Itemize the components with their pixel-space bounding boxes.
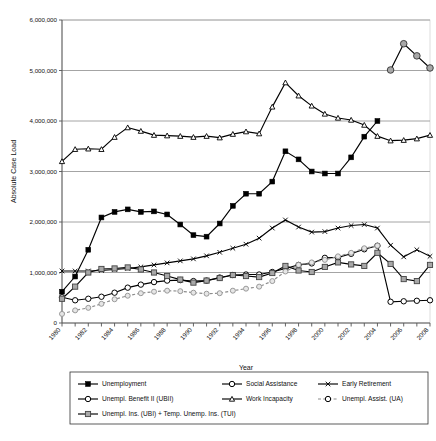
series-6-point-25-marker bbox=[388, 261, 393, 266]
x-axis-tick-label-text: 1994 bbox=[231, 326, 246, 342]
series-0-point-21-marker bbox=[336, 171, 341, 176]
series-6-point-7-marker bbox=[151, 270, 156, 275]
x-axis-tick-label-text: 1980 bbox=[47, 326, 62, 342]
series-3-point-2-marker bbox=[414, 53, 421, 60]
series-5-point-5-marker bbox=[125, 293, 130, 298]
series-6-point-28-marker bbox=[427, 262, 432, 267]
series-6-point-22-marker bbox=[349, 262, 354, 267]
x-axis-tick-label-text: 1996 bbox=[257, 326, 272, 342]
legend-item-label: Early Retirement bbox=[342, 380, 391, 388]
series-6-point-4-marker bbox=[112, 266, 117, 271]
series-6-point-23-marker bbox=[362, 263, 367, 268]
series-1-point-26-marker bbox=[401, 299, 406, 304]
series-0-point-22-marker bbox=[349, 155, 354, 160]
x-axis-tick-label: 1982 bbox=[73, 326, 88, 342]
x-axis-tick-label-text: 1982 bbox=[73, 326, 88, 342]
series-6-point-1-marker bbox=[73, 284, 78, 289]
series-0-point-15-marker bbox=[257, 191, 262, 196]
series-6-point-16-marker bbox=[270, 270, 275, 275]
series-0-point-2-marker bbox=[86, 247, 91, 252]
series-0-point-7-marker bbox=[152, 209, 157, 214]
y-axis-title: Absolute Case Load bbox=[10, 140, 17, 203]
series-6-point-3-marker bbox=[99, 266, 104, 271]
series-0-point-8-marker bbox=[165, 212, 170, 217]
series-1-point-1-marker bbox=[72, 298, 77, 303]
x-axis-tick-label-text: 2000 bbox=[310, 326, 325, 342]
series-0-point-20-marker bbox=[322, 171, 327, 176]
x-axis-tick-label-text: 2006 bbox=[389, 326, 404, 342]
series-0-point-5-marker bbox=[125, 207, 130, 212]
y-axis-tick-label: 2,000,000 bbox=[29, 218, 57, 225]
series-5-point-8-marker bbox=[165, 288, 170, 293]
series-5-point-14-marker bbox=[244, 286, 249, 291]
x-axis-title: Year bbox=[239, 364, 254, 371]
series-5-point-21-marker bbox=[336, 254, 341, 259]
series-5-point-3-marker bbox=[99, 301, 104, 306]
legend-item-label: Unemployment bbox=[102, 380, 147, 388]
series-5-point-20-marker bbox=[322, 257, 327, 262]
y-axis-title-text: Absolute Case Load bbox=[10, 140, 17, 203]
x-axis-tick-label-text: 1988 bbox=[152, 326, 167, 342]
x-axis-tick-label: 1990 bbox=[178, 326, 193, 342]
series-0-point-24-marker bbox=[375, 119, 380, 124]
series-6-point-10-marker bbox=[191, 280, 196, 285]
x-axis-tick-label-text: 1986 bbox=[126, 326, 141, 342]
y-axis-tick-label: 4,000,000 bbox=[29, 117, 57, 124]
legend-item-2-0: Unempl. Ins. (UBI) + Temp. Unemp. Ins. (… bbox=[78, 410, 236, 418]
series-6-point-26-marker bbox=[401, 276, 406, 281]
series-1-point-3-marker bbox=[99, 294, 104, 299]
x-axis-tick-label-text: 1984 bbox=[100, 326, 115, 342]
series-5-point-12-marker bbox=[217, 291, 222, 296]
series-6-point-11-marker bbox=[204, 278, 209, 283]
series-5-point-16-marker bbox=[270, 279, 275, 284]
series-0-point-14-marker bbox=[244, 191, 249, 196]
y-axis-tick-label: 0 bbox=[54, 319, 58, 326]
x-axis-tick-label: 1998 bbox=[284, 326, 299, 342]
series-5-point-18-marker bbox=[296, 262, 301, 267]
series-6-point-6-marker bbox=[138, 267, 143, 272]
series-5-point-0-marker bbox=[60, 311, 65, 316]
series-0-point-4-marker bbox=[112, 210, 117, 215]
series-0-point-13-marker bbox=[230, 203, 235, 208]
legend: UnemploymentSocial AssistanceEarly Retir… bbox=[70, 372, 428, 424]
series-5-point-13-marker bbox=[230, 288, 235, 293]
x-axis-tick-label-text: 2008 bbox=[415, 326, 430, 342]
series-1-point-5-marker bbox=[125, 285, 130, 290]
series-6-point-9-marker bbox=[178, 277, 183, 282]
series-1-point-6-marker bbox=[138, 282, 143, 287]
series-0-point-18-marker bbox=[296, 157, 301, 162]
series-0-point-12-marker bbox=[217, 221, 222, 226]
x-axis-tick-label-text: 2004 bbox=[362, 326, 377, 342]
legend-item-label: Work Incapacity bbox=[246, 395, 293, 403]
legend-item-1-2-marker bbox=[325, 396, 330, 401]
y-axis-tick-label: 6,000,000 bbox=[29, 16, 57, 23]
series-0-point-16-marker bbox=[270, 179, 275, 184]
legend-item-label: Unempl. Benefit II (UBII) bbox=[102, 395, 173, 403]
series-6-point-2-marker bbox=[86, 270, 91, 275]
series-1-point-27-marker bbox=[414, 298, 419, 303]
series-6-point-20-marker bbox=[322, 264, 327, 269]
series-0-point-6-marker bbox=[138, 210, 143, 215]
x-axis-tick-label: 2008 bbox=[415, 326, 430, 342]
x-axis-tick-label: 1984 bbox=[100, 326, 115, 342]
series-5-point-17-marker bbox=[283, 269, 288, 274]
x-axis-tick-label: 2006 bbox=[389, 326, 404, 342]
series-6-point-12-marker bbox=[217, 275, 222, 280]
x-axis-tick-label: 2002 bbox=[336, 326, 351, 342]
series-5-point-6-marker bbox=[138, 291, 143, 296]
y-axis-tick-label: 5,000,000 bbox=[29, 67, 57, 74]
series-5-point-2-marker bbox=[86, 305, 91, 310]
series-6-point-0-marker bbox=[59, 296, 64, 301]
legend-item-1-0-marker bbox=[85, 396, 90, 401]
x-axis-tick-label: 2000 bbox=[310, 326, 325, 342]
series-6-point-18-marker bbox=[296, 268, 301, 273]
series-5-point-4-marker bbox=[112, 297, 117, 302]
series-6-point-24-marker bbox=[375, 250, 380, 255]
series-6-point-8-marker bbox=[165, 273, 170, 278]
series-0-point-23-marker bbox=[362, 134, 367, 139]
x-axis-tick-label: 1994 bbox=[231, 326, 246, 342]
series-0-point-17-marker bbox=[283, 149, 288, 154]
series-6-point-15-marker bbox=[257, 274, 262, 279]
series-0-point-19-marker bbox=[309, 169, 314, 174]
x-axis-tick-label: 2004 bbox=[362, 326, 377, 342]
